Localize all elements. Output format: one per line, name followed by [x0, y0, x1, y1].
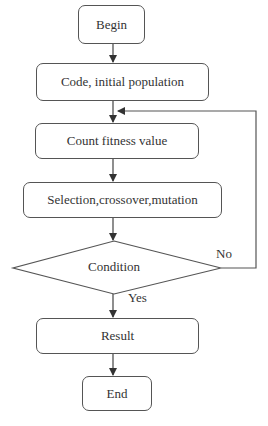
count-label: Count fitness value: [67, 133, 167, 149]
end-node: End: [82, 376, 152, 411]
end-label: End: [107, 386, 128, 402]
code-node: Code, initial population: [36, 63, 209, 101]
code-label: Code, initial population: [61, 74, 184, 90]
begin-label: Begin: [96, 17, 127, 33]
no-label: No: [216, 246, 232, 262]
begin-node: Begin: [78, 5, 145, 44]
yes-label: Yes: [128, 290, 147, 306]
condition-label: Condition: [88, 259, 140, 275]
result-node: Result: [36, 318, 199, 354]
selection-node: Selection,crossover,mutation: [23, 182, 222, 218]
count-node: Count fitness value: [35, 123, 199, 159]
selection-label: Selection,crossover,mutation: [47, 192, 197, 208]
result-label: Result: [101, 328, 134, 344]
